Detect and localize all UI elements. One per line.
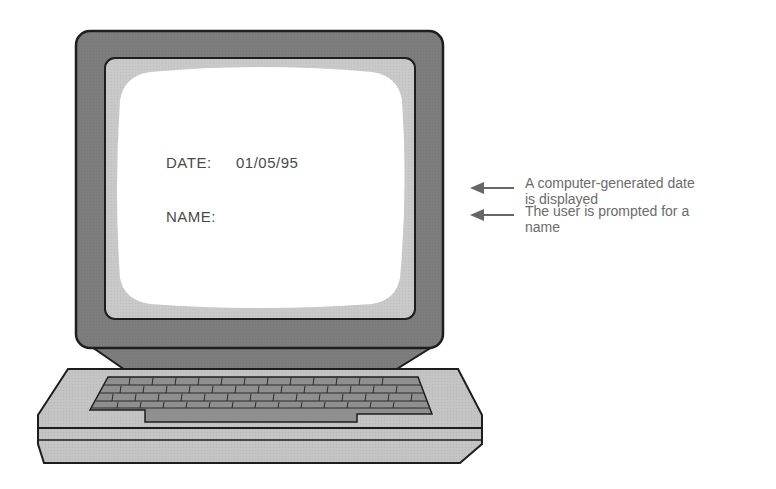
- callout-date-line1: A computer-generated date: [525, 175, 695, 191]
- monitor: [76, 31, 443, 348]
- keyboard: [38, 369, 482, 463]
- computer-drawing: [0, 0, 776, 489]
- callout-name-line1: The user is prompted for a: [525, 203, 689, 219]
- arrow-left-icon: [470, 209, 484, 221]
- terminal-illustration: DATE: 01/05/95 NAME: A computer-generate…: [0, 0, 776, 489]
- name-label: NAME:: [166, 208, 216, 225]
- arrow-left-icon: [470, 182, 484, 194]
- crt-screen: [117, 67, 405, 308]
- callout-arrows: [470, 182, 514, 221]
- callout-name: The user is prompted for a name: [525, 203, 689, 235]
- callout-name-line2: name: [525, 219, 689, 235]
- date-label: DATE:: [166, 154, 212, 171]
- date-value: 01/05/95: [236, 154, 298, 171]
